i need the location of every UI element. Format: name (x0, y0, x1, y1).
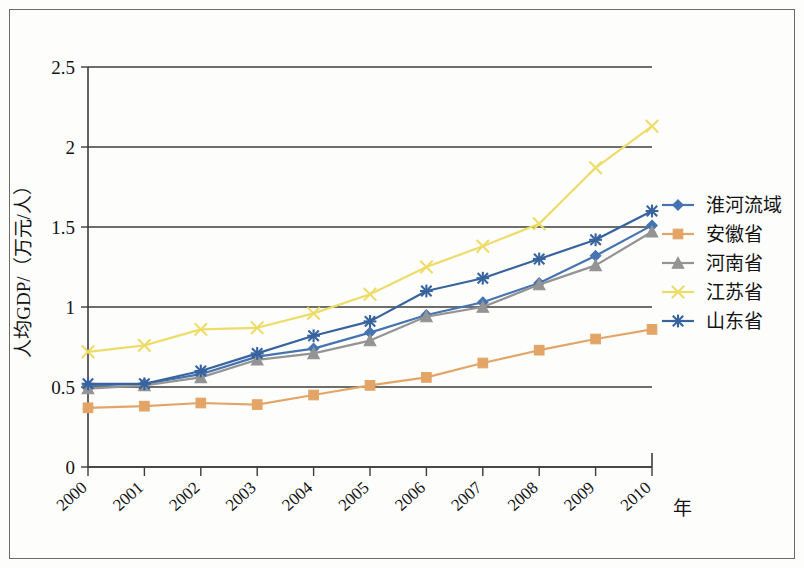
data-point-marker-asterisk (420, 285, 433, 298)
legend-label: 河南省 (706, 253, 763, 274)
x-tick-label: 2007 (447, 478, 485, 515)
data-point-marker-asterisk (138, 377, 151, 390)
data-point-marker-triangle (590, 260, 602, 271)
data-point-marker-asterisk (251, 347, 264, 360)
data-point-marker-asterisk (646, 205, 659, 218)
x-tick-label: 2006 (391, 478, 429, 515)
data-point-marker-diamond (673, 200, 683, 210)
data-point-marker-asterisk (82, 377, 95, 390)
figure-container: 00.511.522.5 200020012002200320042005200… (0, 0, 804, 568)
axes-group (88, 67, 652, 467)
y-axis-title: 人均GDP/（万元/人） (13, 176, 34, 358)
series-line (88, 232, 652, 389)
x-axis-title: 年 (673, 498, 692, 519)
y-tick-label: 1 (66, 297, 76, 318)
x-tick-label: 2005 (335, 478, 373, 515)
legend-label: 淮河流域 (706, 195, 782, 216)
legend-item-5[interactable]: 山东省 (662, 311, 763, 332)
x-tick-label: 2009 (560, 478, 598, 515)
legend-label: 山东省 (706, 311, 763, 332)
data-point-marker-asterisk (307, 329, 320, 342)
data-point-marker-asterisk (194, 365, 207, 378)
x-tick-label: 2001 (109, 478, 147, 515)
x-tick-labels-group: 2000200120022003200420052006200720082009… (53, 478, 655, 515)
data-point-marker-square (673, 229, 683, 239)
data-point-marker-square (140, 401, 150, 411)
series-5 (82, 205, 659, 391)
data-point-marker-cross (364, 288, 376, 300)
legend-label: 安徽省 (706, 224, 763, 245)
legend-label: 江苏省 (706, 282, 763, 303)
gridlines-group (81, 67, 652, 467)
data-point-marker-asterisk (672, 315, 685, 328)
x-tick-label: 2000 (53, 478, 91, 515)
data-point-marker-square (647, 325, 657, 335)
y-tick-label: 2.5 (51, 57, 75, 78)
y-tick-label: 1.5 (51, 217, 75, 238)
data-series-group (82, 120, 659, 413)
x-tick-label: 2003 (222, 478, 260, 515)
data-point-marker-cross (420, 261, 432, 273)
data-point-marker-square (478, 358, 488, 368)
series-line (88, 211, 652, 384)
data-point-marker-square (534, 345, 544, 355)
line-chart: 00.511.522.5 200020012002200320042005200… (0, 0, 804, 568)
data-point-marker-cross (589, 162, 601, 174)
y-tick-labels-group: 00.511.522.5 (51, 57, 75, 478)
chart-legend: 淮河流域安徽省河南省江苏省山东省 (662, 195, 782, 332)
data-point-marker-cross (477, 240, 489, 252)
legend-item-1[interactable]: 淮河流域 (662, 195, 782, 216)
series-1 (83, 220, 657, 390)
x-tick-label: 2008 (504, 478, 542, 515)
data-point-marker-square (196, 398, 206, 408)
data-point-marker-square (83, 403, 93, 413)
data-point-marker-asterisk (589, 233, 602, 246)
data-point-marker-cross (533, 218, 545, 230)
data-point-marker-asterisk (533, 253, 546, 266)
series-3 (82, 226, 658, 394)
y-tick-label: 0 (66, 457, 76, 478)
data-point-marker-asterisk (364, 315, 377, 328)
x-tick-label: 2004 (278, 478, 316, 515)
data-point-marker-square (591, 334, 601, 344)
data-point-marker-square (365, 381, 375, 391)
legend-item-2[interactable]: 安徽省 (662, 224, 763, 245)
y-tick-label: 0.5 (51, 377, 75, 398)
data-point-marker-square (422, 373, 432, 383)
y-tick-label: 2 (66, 137, 76, 158)
legend-item-3[interactable]: 河南省 (662, 253, 763, 274)
data-point-marker-square (252, 400, 262, 410)
x-tickmarks-group (88, 467, 652, 476)
x-tick-label: 2010 (617, 478, 655, 515)
data-point-marker-triangle (364, 335, 376, 346)
data-point-marker-asterisk (476, 272, 489, 285)
legend-item-4[interactable]: 江苏省 (662, 282, 763, 303)
data-point-marker-square (309, 390, 319, 400)
data-point-marker-cross (646, 120, 658, 132)
x-tick-label: 2002 (165, 478, 203, 515)
